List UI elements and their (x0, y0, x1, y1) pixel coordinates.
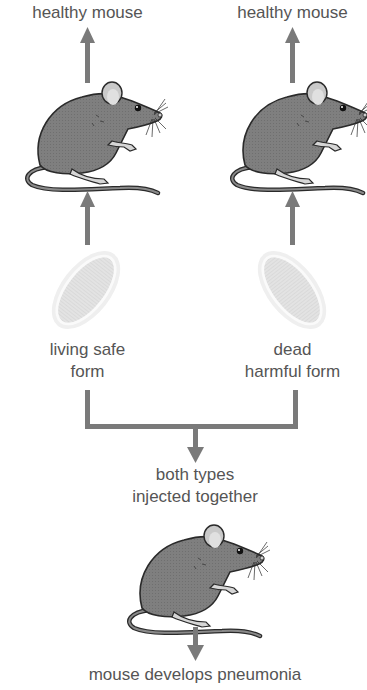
combined-label: both types injected together (95, 464, 295, 508)
inoculum-label-left-line2: form (0, 361, 175, 383)
inoculum-label-right-line1: dead (205, 339, 367, 361)
bacterium-icon-left (38, 239, 133, 341)
arrow-up-right-top (285, 27, 300, 83)
combined-label-line1: both types (95, 464, 295, 486)
arrow-up-left-top (80, 27, 95, 83)
result-label-right-text: healthy mouse (205, 2, 367, 24)
arrow-up-left-middle (80, 191, 95, 245)
combine-bracket (85, 390, 298, 463)
inoculum-label-right: dead harmful form (205, 339, 367, 383)
final-result-label-text: mouse develops pneumonia (45, 664, 345, 686)
mouse-icon-left (27, 82, 168, 193)
final-result-label: mouse develops pneumonia (45, 664, 345, 686)
result-label-left: healthy mouse (0, 2, 175, 24)
result-label-right: healthy mouse (205, 2, 367, 24)
inoculum-label-right-line2: harmful form (205, 361, 367, 383)
result-label-left-text: healthy mouse (0, 2, 175, 24)
arrow-up-right-middle (285, 191, 300, 245)
mouse-icon-bottom (129, 525, 270, 636)
inoculum-label-left-line1: living safe (0, 339, 175, 361)
inoculum-label-left: living safe form (0, 339, 175, 383)
mouse-icon-right (232, 82, 367, 193)
combined-label-line2: injected together (95, 486, 295, 508)
bacterium-icon-right (244, 239, 339, 341)
